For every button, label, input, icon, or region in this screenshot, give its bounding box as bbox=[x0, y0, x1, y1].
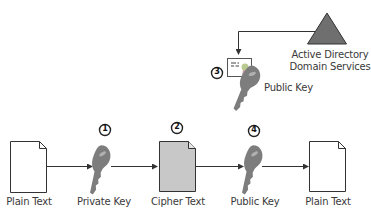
private-key-label: Private Key bbox=[77, 196, 131, 207]
plain-text-label: Plain Text bbox=[6, 196, 51, 207]
plain-text-document-icon bbox=[310, 142, 346, 192]
certificate-public-key-label: Public Key bbox=[264, 82, 313, 93]
diagram-canvas bbox=[0, 0, 371, 215]
cipher-text-document-icon bbox=[160, 142, 196, 192]
step-badge-2-number: 2 bbox=[174, 122, 179, 131]
plain-text-label-2: Plain Text bbox=[305, 196, 350, 207]
active-directory-triangle-icon bbox=[308, 13, 347, 44]
step-badge-4-number: 4 bbox=[251, 125, 256, 134]
cipher-text-label: Cipher Text bbox=[151, 196, 205, 207]
ad-ds-label-line2: Domain Services bbox=[289, 61, 370, 72]
public-key-label: Public Key bbox=[231, 196, 280, 207]
certificate-public-key-icon bbox=[228, 59, 264, 115]
public-key-icon bbox=[237, 144, 264, 197]
step-badge-3-number: 3 bbox=[214, 67, 219, 76]
plain-text-document-icon bbox=[11, 142, 47, 193]
ad-ds-label-line1: Active Directory bbox=[291, 49, 368, 60]
step-badge-1-number: 1 bbox=[102, 124, 107, 133]
private-key-icon bbox=[85, 144, 112, 197]
